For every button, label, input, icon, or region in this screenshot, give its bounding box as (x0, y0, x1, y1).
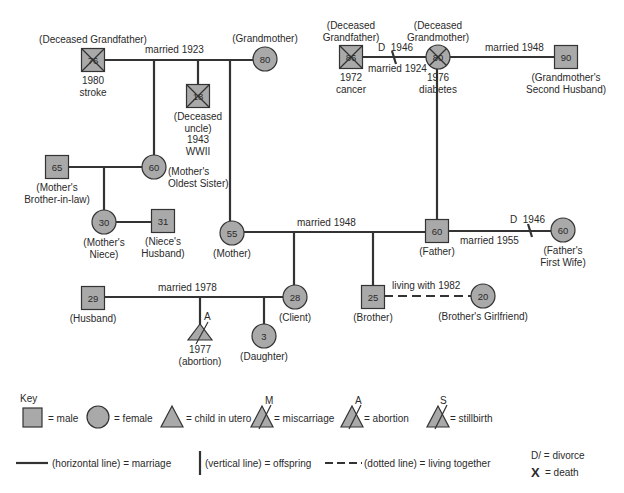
legend-miscarriage-text: = miscarriage (274, 413, 335, 424)
age-label: 80 (433, 52, 444, 63)
age-label: 55 (227, 228, 238, 239)
legend-stillbirth-text: = stillbirth (450, 413, 493, 424)
person-father: 60(Father) (419, 220, 455, 258)
person-brother: 25(Brother) (353, 286, 392, 324)
legend-child-in-utero-symbol (161, 406, 183, 427)
legend-marriage-text: (horizontal line) = marriage (52, 458, 172, 469)
living-together-label: living with 1982 (392, 280, 461, 291)
person-ffw: 60(Father'sFirst Wife) (540, 218, 586, 268)
age-label: 25 (368, 292, 379, 303)
divorce-label: D 1946 (510, 214, 545, 225)
fetus-note: (abortion) (179, 356, 222, 367)
legend-living-together-text: (dotted line) = living together (364, 458, 491, 469)
age-label: 90 (561, 52, 572, 63)
person-label: (Mother's (83, 237, 124, 248)
person-label: Grandmother) (407, 32, 469, 43)
person-label: Niece) (90, 249, 119, 260)
age-label: 80 (260, 54, 271, 65)
person-label: (Niece's (145, 236, 181, 247)
age-label: 20 (478, 291, 489, 302)
marriage-label: married 1924 (368, 63, 427, 74)
death-info: stroke (79, 87, 107, 98)
abortion-mark: A (355, 395, 362, 406)
abortion-mark: A (204, 311, 211, 322)
person-label: (Brother's Girlfriend) (438, 311, 528, 322)
legend-death-text: = death (545, 467, 579, 478)
genogram-diagram: A 1977 (abortion) 76(Deceased Grandfathe… (0, 0, 624, 493)
person-niece: 30(Mother'sNiece) (83, 210, 124, 260)
person-daughter: 3(Daughter) (240, 324, 288, 362)
age-label: 28 (290, 292, 301, 303)
person-label: (Deceased (174, 111, 222, 122)
age-label: 60 (558, 225, 569, 236)
age-label: 18 (193, 91, 204, 102)
legend-death-symbol: X (531, 465, 540, 480)
person-client: 28(Client) (279, 285, 311, 323)
divorce-label: D 1946 (378, 42, 413, 53)
legend-male-text: = male (48, 413, 79, 424)
death-info: cancer (336, 84, 367, 95)
marriage-label: married 1948 (297, 217, 356, 228)
person-husband: 29(Husband) (70, 287, 117, 325)
person-label: WWII (186, 146, 210, 157)
legend-female-text: = female (114, 413, 153, 424)
age-label: 60 (149, 162, 160, 173)
person-nh: 31(Niece'sHusband) (141, 210, 184, 259)
family-members: 76(Deceased Grandfather)1980stroke80(Gra… (24, 20, 606, 362)
person-label: 1943 (187, 134, 210, 145)
person-uncle: 18(Deceaseduncle)1943WWII (174, 85, 222, 157)
death-info: 1980 (82, 75, 105, 86)
marriage-label: married 1948 (485, 42, 544, 53)
person-label: Oldest Sister) (168, 178, 229, 189)
person-label: (Deceased (414, 20, 462, 31)
age-label: 76 (88, 55, 99, 66)
age-label: 65 (52, 162, 63, 173)
person-label: (Grandmother) (232, 33, 298, 44)
person-label: (Deceased Grandfather) (39, 34, 147, 45)
age-label: 29 (88, 293, 99, 304)
person-label: (Husband) (70, 313, 117, 324)
person-label: uncle) (184, 123, 211, 134)
legend-title: Key (20, 393, 37, 404)
marriage-label: married 1923 (145, 44, 204, 55)
person-label: (Father) (419, 246, 455, 257)
stillbirth-mark: S (440, 395, 447, 406)
legend-child-in-utero-text: = child in utero (186, 413, 252, 424)
person-label: (Daughter) (240, 351, 288, 362)
person-label: (Mother) (213, 248, 251, 259)
person-pgm: 80(Grandmother) (232, 33, 298, 71)
marriage-label: married 1978 (158, 282, 217, 293)
death-info: 1976 (427, 72, 450, 83)
person-label: (Mother's (168, 166, 209, 177)
person-mother: 55(Mother) (213, 221, 251, 259)
legend-male-symbol (23, 408, 42, 427)
miscarriage-mark: M (265, 395, 273, 406)
marriage-label: married 1955 (460, 235, 519, 246)
person-label: Grandfather) (323, 32, 380, 43)
person-label: (Client) (279, 312, 311, 323)
legend-offspring-text: (vertical line) = offspring (205, 458, 311, 469)
death-info: 1972 (340, 72, 363, 83)
legend: Key = male = female = child in utero M =… (16, 393, 585, 480)
fetus-year: 1977 (189, 344, 212, 355)
person-label: (Mother's (36, 182, 77, 193)
person-label: Second Husband) (526, 84, 606, 95)
person-label: (Father's (543, 245, 582, 256)
age-label: 86 (346, 52, 357, 63)
legend-female-symbol (87, 406, 109, 428)
person-label: Husband) (141, 248, 184, 259)
age-label: 3 (261, 331, 266, 342)
age-label: 60 (432, 226, 443, 237)
person-sis: 60(Mother'sOldest Sister) (142, 155, 229, 189)
age-label: 30 (99, 217, 110, 228)
legend-divorce-text: D/ = divorce (531, 450, 585, 461)
legend-abortion-text: = abortion (364, 413, 409, 424)
person-label: (Grandmother's (531, 72, 600, 83)
age-label: 31 (158, 216, 169, 227)
person-label: First Wife) (540, 257, 586, 268)
person-label: (Brother) (353, 312, 392, 323)
person-label: Brother-in-law) (24, 194, 90, 205)
person-bil: 65(Mother'sBrother-in-law) (24, 156, 90, 205)
death-info: diabetes (419, 84, 457, 95)
person-label: (Deceased (327, 20, 375, 31)
